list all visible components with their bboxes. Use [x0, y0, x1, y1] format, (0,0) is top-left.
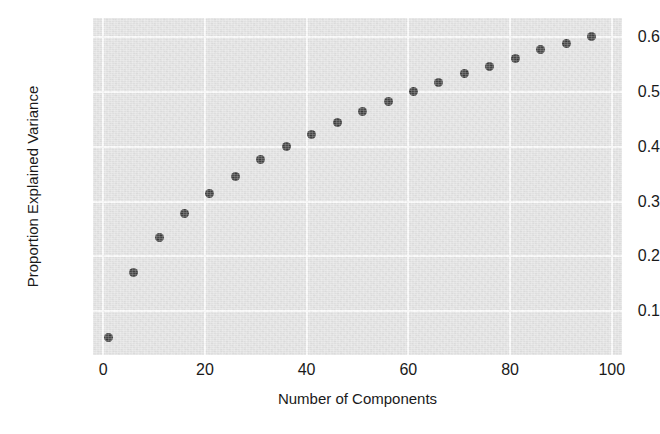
y-tick-label: 0.2 [574, 248, 660, 264]
gridline-x-60 [407, 18, 409, 355]
data-point [409, 87, 418, 96]
gridline-y-0.1 [93, 310, 622, 312]
y-tick-label: 0.6 [574, 29, 660, 45]
gridline-x-80 [509, 18, 511, 355]
data-point [205, 189, 214, 198]
data-point [256, 155, 265, 164]
x-axis-label: Number of Components [93, 390, 622, 407]
x-tick-label: 60 [378, 362, 438, 378]
data-point [384, 97, 393, 106]
paper-texture-overlay [93, 18, 622, 355]
gridline-y-0.2 [93, 255, 622, 257]
data-point [155, 233, 164, 242]
x-tick-label: 0 [73, 362, 133, 378]
y-axis-label: Proportion Explained Variance [22, 18, 44, 355]
data-point [104, 333, 113, 342]
data-point [307, 130, 316, 139]
y-tick-label: 0.4 [574, 139, 660, 155]
data-point [511, 54, 520, 63]
x-tick-label: 40 [277, 362, 337, 378]
plot-panel [93, 18, 622, 355]
gridline-y-0.3 [93, 201, 622, 203]
data-point [358, 107, 367, 116]
x-tick-label: 100 [582, 362, 642, 378]
gridline-y-0.6 [93, 36, 622, 38]
gridline-y-0.4 [93, 146, 622, 148]
y-tick-label: 0.5 [574, 84, 660, 100]
data-point [434, 78, 443, 87]
scree-plot-figure: 0.10.20.30.40.50.6 020406080100 Number o… [0, 0, 660, 434]
gridline-x-40 [306, 18, 308, 355]
data-point [562, 39, 571, 48]
data-point [231, 172, 240, 181]
data-point [333, 118, 342, 127]
x-tick-label: 80 [480, 362, 540, 378]
gridline-x-0 [102, 18, 104, 355]
y-tick-label: 0.3 [574, 194, 660, 210]
data-point [485, 62, 494, 71]
gridline-x-20 [204, 18, 206, 355]
data-point [129, 268, 138, 277]
data-point [460, 69, 469, 78]
x-tick-label: 20 [175, 362, 235, 378]
y-tick-label: 0.1 [574, 303, 660, 319]
data-point [536, 45, 545, 54]
data-point [180, 209, 189, 218]
data-point [282, 142, 291, 151]
gridline-y-0.5 [93, 91, 622, 93]
